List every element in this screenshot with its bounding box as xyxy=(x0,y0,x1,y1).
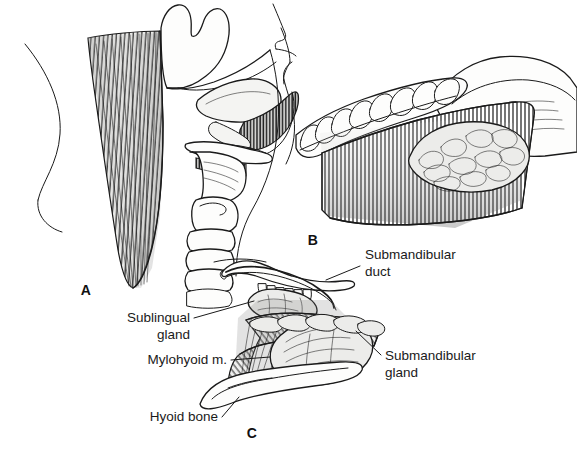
label-submandibular-gland-line2: gland xyxy=(385,365,418,380)
label-submandibular-gland-line1: Submandibular xyxy=(385,348,476,363)
label-sublingual-gland-line1: Sublingual xyxy=(127,310,190,325)
label-hyoid-bone: Hyoid bone xyxy=(150,409,218,424)
panel-letter-a: A xyxy=(81,282,92,298)
panel-letter-c: C xyxy=(247,425,258,441)
panel-letter-b: B xyxy=(308,232,319,248)
label-submandibular-duct-line2: duct xyxy=(365,264,391,279)
label-sublingual-gland-line2: gland xyxy=(157,327,190,342)
figure-canvas: A xyxy=(0,0,577,452)
anatomy-figure: A xyxy=(0,0,577,452)
label-mylohyoid-muscle: Mylohyoid m. xyxy=(147,352,227,367)
label-submandibular-duct-line1: Submandibular xyxy=(365,247,456,262)
